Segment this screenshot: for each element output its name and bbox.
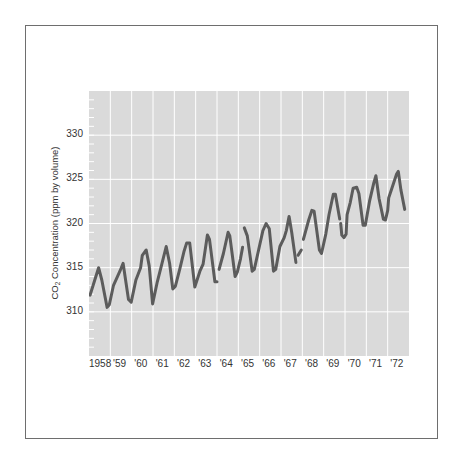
x-tick-label: '72 [390,358,403,369]
x-tick-label: '68 [305,358,318,369]
x-tick-label: '67 [284,358,297,369]
x-tick-label: '61 [156,358,169,369]
x-tick-label: '71 [369,358,382,369]
data-line-segment [244,216,296,271]
data-line-segment [298,250,301,255]
y-tick-label: 310 [53,305,83,316]
x-tick-label: 1958 [89,358,111,369]
x-tick-label: '62 [177,358,190,369]
x-tick-label: '65 [241,358,254,369]
x-tick-label: '66 [262,358,275,369]
y-tick-label: 330 [53,128,83,139]
y-tick-label: 320 [53,217,83,228]
y-tick-label: 315 [53,261,83,272]
x-tick-label: '69 [326,358,339,369]
plot-area [89,91,409,356]
x-tick-label: '60 [134,358,147,369]
x-tick-label: '63 [198,358,211,369]
data-line-segment [219,232,243,276]
data-line-segment [90,235,217,307]
x-tick-label: '64 [220,358,233,369]
data-line-segment [341,171,405,237]
co2-line-chart [89,91,409,356]
x-tick-label: '70 [348,358,361,369]
y-tick-label: 325 [53,172,83,183]
x-tick-label: '59 [113,358,126,369]
